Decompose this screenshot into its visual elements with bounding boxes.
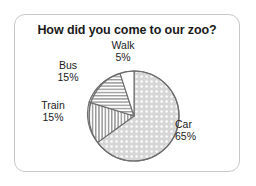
pie-label-walk: Walk 5% — [101, 40, 145, 63]
pie-label-bus-name: Bus — [47, 60, 89, 72]
pie-label-car-name: Car — [175, 119, 217, 131]
pie-label-walk-value: 5% — [101, 52, 145, 64]
pie-label-walk-name: Walk — [101, 40, 145, 52]
pie-label-car-value: 65% — [175, 131, 217, 143]
pie-label-train-value: 15% — [29, 112, 77, 124]
pie-label-train-name: Train — [29, 100, 77, 112]
pie-label-car: Car 65% — [175, 119, 217, 142]
chart-card: How did you come to our zoo? — [14, 14, 240, 172]
pie-label-bus: Bus 15% — [47, 60, 89, 83]
pie-label-bus-value: 15% — [47, 72, 89, 84]
pie-label-train: Train 15% — [29, 100, 77, 123]
